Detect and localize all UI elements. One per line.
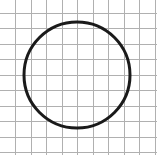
grid-circle-figure: [0, 0, 157, 163]
